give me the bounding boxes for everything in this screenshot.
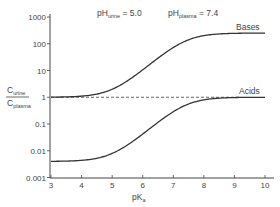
x-tick-label: 7: [171, 181, 176, 190]
y-axis-label: Curine Cplasma: [6, 85, 32, 109]
x-tick-label: 9: [232, 181, 237, 190]
x-axis-label: pKa: [132, 192, 146, 203]
chart-canvas: 10001001010.10.010.001 345678910 Bases A…: [0, 0, 280, 207]
acids-label: Acids: [239, 86, 260, 96]
svg-text:Curine: Curine: [7, 85, 25, 96]
acids-curve: [51, 97, 265, 161]
x-tick-label: 8: [202, 181, 207, 190]
x-tick-label: 4: [79, 181, 84, 190]
ph-plasma-annotation: pHplasma = 7.4: [168, 8, 218, 19]
y-tick-label: 100: [33, 40, 47, 49]
x-tick-label: 10: [261, 181, 270, 190]
ph-urine-annotation: pHurine = 5.0: [97, 8, 142, 19]
x-ticks: 345678910: [49, 175, 270, 190]
y-ticks: 10001001010.10.010.001: [26, 13, 50, 183]
y-tick-label: 10: [37, 67, 46, 76]
y-tick-label: 0.01: [30, 147, 46, 156]
x-tick-label: 6: [140, 181, 145, 190]
y-tick-label: 1: [42, 93, 47, 102]
svg-text:Cplasma: Cplasma: [7, 98, 32, 109]
x-tick-label: 5: [110, 181, 115, 190]
y-tick-label: 1000: [28, 13, 46, 22]
y-tick-label: 0.1: [35, 120, 47, 129]
bases-label: Bases: [236, 22, 260, 32]
bases-curve: [51, 33, 265, 97]
y-tick-label: 0.001: [26, 174, 47, 183]
x-tick-label: 3: [49, 181, 54, 190]
